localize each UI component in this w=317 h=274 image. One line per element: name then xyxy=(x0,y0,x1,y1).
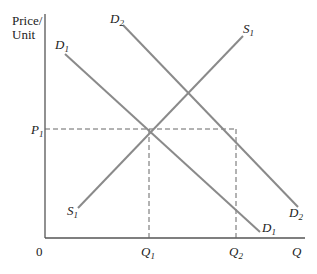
demand-curve-d1 xyxy=(65,54,260,232)
y-axis-label-line1: Price/ xyxy=(12,13,43,28)
q1-label: Q1 xyxy=(141,244,155,261)
origin-label: 0 xyxy=(36,244,43,259)
d2-bottom-label: D2 xyxy=(288,205,303,222)
supply-curve-s1 xyxy=(78,36,243,208)
q2-label: Q2 xyxy=(229,244,243,261)
y-axis-label-line2: Unit xyxy=(12,27,36,42)
d1-top-label: D1 xyxy=(54,37,69,54)
supply-demand-diagram: Price/ Unit D1 D2 S1 S1 D2 D1 P1 0 Q1 Q2… xyxy=(0,0,317,274)
s1-bottom-label: S1 xyxy=(67,203,78,220)
d2-top-label: D2 xyxy=(109,11,124,28)
s1-top-label: S1 xyxy=(243,21,254,38)
x-axis-label: Q xyxy=(292,244,302,259)
d1-bottom-label: D1 xyxy=(261,220,276,237)
p1-label: P1 xyxy=(30,122,43,139)
